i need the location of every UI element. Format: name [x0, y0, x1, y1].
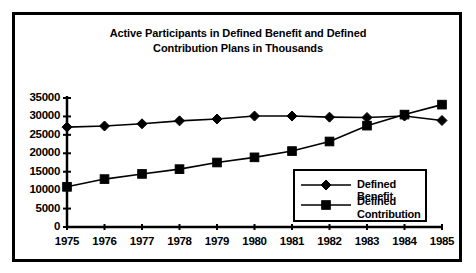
- x-axis-tick-label: 1984: [385, 235, 425, 247]
- y-axis-tick-label: 30000: [2, 109, 60, 121]
- x-axis-tick-label: 1975: [47, 235, 87, 247]
- y-axis-tick-label: 35000: [2, 91, 60, 103]
- y-axis-tick-label: 20000: [2, 146, 60, 158]
- legend-entry-defined-contribution: Defined Contribution: [295, 196, 425, 220]
- y-axis-tick-label: 5000: [2, 202, 60, 214]
- legend-label-defined-contribution-line-1: Defined: [357, 195, 396, 207]
- series-defined-benefit: [62, 111, 447, 132]
- y-axis-tick-label: 0: [2, 220, 60, 232]
- x-axis-tick-label: 1981: [272, 235, 312, 247]
- legend-label-defined-contribution-line-2: Contribution: [357, 208, 421, 220]
- x-axis-tick-label: 1982: [310, 235, 350, 247]
- x-axis-tick-label: 1980: [235, 235, 275, 247]
- x-axis-tick-label: 1978: [160, 235, 200, 247]
- x-axis-tick-label: 1976: [85, 235, 125, 247]
- y-axis-tick-label: 10000: [2, 183, 60, 195]
- x-axis-tick-label: 1977: [122, 235, 162, 247]
- plot-area: [0, 0, 476, 273]
- chart-legend: Defined Benefit Defined Contribution: [293, 169, 427, 222]
- y-axis-tick-label: 15000: [2, 165, 60, 177]
- chart-figure: Active Participants in Defined Benefit a…: [0, 0, 476, 273]
- x-axis-tick-label: 1983: [347, 235, 387, 247]
- y-axis-tick-label: 25000: [2, 128, 60, 140]
- x-axis-tick-label: 1979: [197, 235, 237, 247]
- x-axis-tick-label: 1985: [422, 235, 462, 247]
